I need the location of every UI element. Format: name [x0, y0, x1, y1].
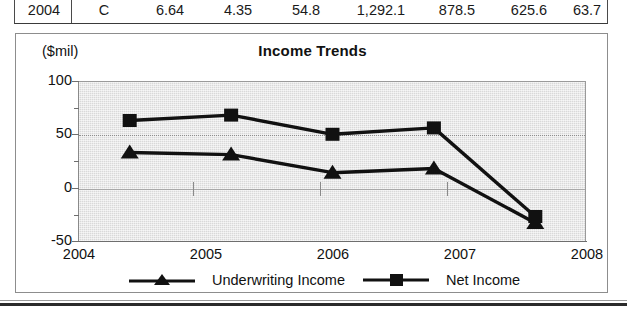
y-tick-75	[74, 108, 79, 109]
data-table-row: 2004 C 6.64 4.35 54.8 1,292.1 878.5 625.…	[14, 0, 608, 24]
table-column-divider	[71, 0, 72, 23]
table-cell-4: 4.35	[205, 0, 271, 22]
x-axis-label-2006: 2006	[303, 246, 363, 262]
table-cell-year: 2004	[17, 0, 71, 22]
x-axis-label-2004: 2004	[49, 246, 109, 262]
x-axis-label-2007: 2007	[430, 246, 490, 262]
page-rule-thin	[0, 300, 627, 301]
table-cell-rating: C	[73, 0, 135, 22]
x-axis-line	[78, 241, 587, 242]
table-cell-8: 625.6	[493, 0, 565, 22]
gridline-0	[79, 189, 585, 190]
y-tick-neg50	[72, 241, 79, 242]
gridline-50	[79, 135, 585, 136]
x-axis-label-2008: 2008	[557, 246, 617, 262]
square-marker-icon	[360, 270, 432, 290]
legend-label-underwriting-income: Underwriting Income	[212, 270, 345, 290]
y-axis-label-neg50: -50	[28, 235, 72, 245]
income-trends-chart: ($mil) Income Trends 100 50 0 -50 2004 2…	[15, 33, 608, 293]
legend-label-net-income: Net Income	[446, 270, 520, 290]
y-tick-100	[72, 81, 79, 82]
y-tick-50	[72, 134, 79, 135]
table-cell-9: 63.7	[565, 0, 609, 22]
triangle-marker-icon	[126, 270, 198, 290]
x-tick-2006	[320, 182, 321, 196]
chart-title: Income Trends	[16, 42, 609, 59]
chart-legend: Underwriting Income Net Income	[16, 270, 609, 292]
x-axis-label-2005: 2005	[176, 246, 236, 262]
y-axis-label-0: 0	[28, 182, 72, 192]
y-axis-label-50: 50	[28, 128, 72, 138]
plot-area	[79, 81, 586, 241]
y-tick-neg25	[74, 215, 79, 216]
x-tick-2007	[447, 182, 448, 196]
y-tick-25	[74, 161, 79, 162]
table-cell-5: 54.8	[271, 0, 341, 22]
y-tick-0	[72, 188, 79, 189]
page-rule-thick	[0, 303, 627, 306]
table-cell-6: 1,292.1	[341, 0, 421, 22]
x-tick-2005	[193, 182, 194, 196]
table-cell-3: 6.64	[135, 0, 205, 22]
table-cell-7: 878.5	[421, 0, 493, 22]
y-axis-label-100: 100	[28, 75, 72, 85]
